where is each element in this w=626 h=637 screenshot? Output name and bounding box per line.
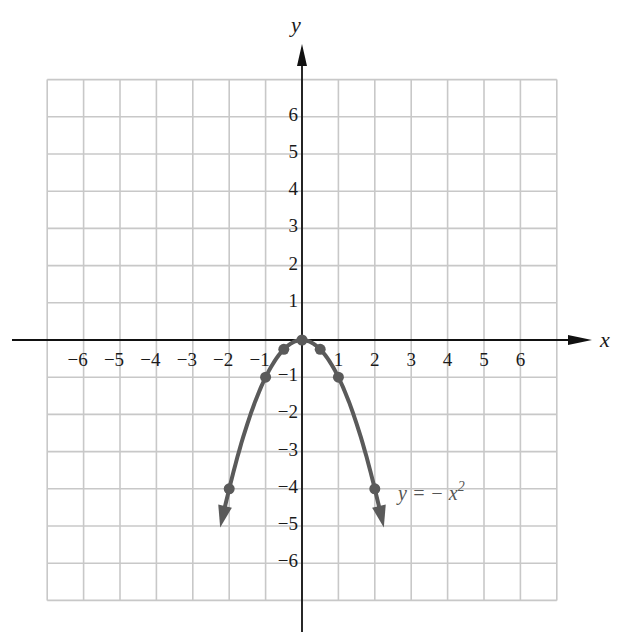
- y-tick-label: 1: [289, 290, 299, 311]
- x-tick-label: 4: [443, 349, 453, 370]
- y-tick-label: 3: [289, 215, 299, 236]
- y-tick-label: 6: [289, 104, 299, 125]
- y-tick-label: 4: [289, 178, 299, 199]
- equation-exponent: 2: [458, 479, 465, 494]
- data-point: [333, 372, 344, 383]
- x-tick-label: 3: [406, 349, 416, 370]
- y-tick-label: −2: [278, 401, 298, 422]
- data-point: [224, 483, 235, 494]
- y-tick-label: −3: [278, 439, 298, 460]
- y-tick-label: −6: [278, 550, 298, 571]
- x-tick-label: −4: [140, 349, 161, 370]
- y-axis-arrow-icon: [297, 44, 307, 66]
- data-point: [278, 344, 289, 355]
- y-axis-label: y: [289, 12, 301, 37]
- parabola-chart: −6−5−4−3−2−1123456654321−1−2−3−4−5−6 x y…: [0, 0, 626, 637]
- x-tick-label: −6: [67, 349, 87, 370]
- x-tick-label: −2: [213, 349, 233, 370]
- x-tick-label: 2: [370, 349, 380, 370]
- data-point: [315, 344, 326, 355]
- data-point: [260, 372, 271, 383]
- y-tick-label: −1: [278, 364, 298, 385]
- equation-text: y = − x: [396, 482, 458, 505]
- data-point: [297, 335, 308, 346]
- y-tick-label: −4: [278, 476, 299, 497]
- y-tick-label: 5: [289, 141, 299, 162]
- y-tick-label: −5: [278, 513, 298, 534]
- x-tick-label: 6: [516, 349, 526, 370]
- y-tick-label: 2: [289, 253, 299, 274]
- x-tick-label: −5: [104, 349, 124, 370]
- x-tick-label: −1: [249, 349, 269, 370]
- equation-label: y = − x2: [396, 479, 465, 505]
- x-axis-arrow-icon: [568, 335, 592, 345]
- x-tick-label: 5: [479, 349, 489, 370]
- data-point: [369, 483, 380, 494]
- x-tick-label: −3: [177, 349, 197, 370]
- x-axis-label: x: [599, 327, 610, 352]
